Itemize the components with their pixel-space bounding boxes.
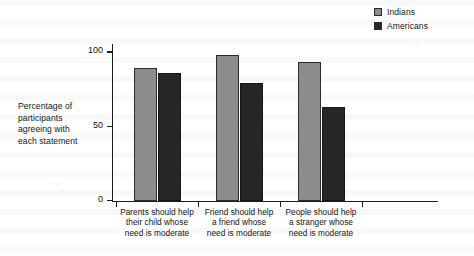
- y-axis-tick-label-100: 100: [88, 45, 103, 55]
- y-axis-line: [112, 44, 113, 202]
- y-axis-title-line-3: agreeing with: [18, 124, 102, 136]
- legend-swatch-americans: [374, 22, 382, 30]
- x-axis-label-1-line-2: their child whose: [116, 217, 198, 227]
- bar-indians-1: [134, 68, 157, 200]
- x-axis-tick-end: [362, 201, 363, 207]
- y-axis-tick-100: 100: [107, 51, 113, 52]
- chart-legend: Indians Americans: [374, 8, 428, 30]
- x-axis-label-2: Friend should helpa friend whoseneed is …: [198, 207, 280, 238]
- y-axis-tick-50: 50: [107, 126, 113, 127]
- legend-label-indians: Indians: [387, 8, 415, 17]
- legend-item-americans: Americans: [374, 22, 428, 31]
- y-axis-title-line-4: each statement: [18, 136, 102, 148]
- legend-swatch-indians: [374, 8, 382, 16]
- bar-indians-3: [298, 62, 321, 200]
- x-axis-label-3: People should helpa stranger whoseneed i…: [280, 207, 362, 238]
- x-axis-label-3-line-1: People should help: [280, 207, 362, 217]
- bar-americans-1: [158, 73, 181, 201]
- x-axis-label-3-line-3: need is moderate: [280, 228, 362, 238]
- x-axis-label-2-line-2: a friend whose: [198, 217, 280, 227]
- y-axis-tick-label-50: 50: [93, 120, 103, 130]
- bar-americans-2: [240, 83, 263, 200]
- y-axis-title: Percentage of participants agreeing with…: [18, 101, 102, 147]
- x-axis-line: [112, 201, 438, 202]
- x-axis-label-2-line-1: Friend should help: [198, 207, 280, 217]
- x-axis-label-1-line-1: Parents should help: [116, 207, 198, 217]
- x-axis-label-1: Parents should helptheir child whoseneed…: [116, 207, 198, 238]
- x-axis-label-1-line-3: need is moderate: [116, 228, 198, 238]
- plot-area: Parents should helptheir child whoseneed…: [112, 44, 438, 202]
- y-axis-tick-label-0: 0: [98, 194, 103, 204]
- legend-label-americans: Americans: [387, 22, 428, 31]
- grouped-bar-chart: Indians Americans Percentage of particip…: [0, 0, 474, 256]
- x-axis-label-2-line-3: need is moderate: [198, 228, 280, 238]
- legend-item-indians: Indians: [374, 8, 428, 17]
- y-axis-title-line-2: participants: [18, 113, 102, 125]
- y-axis-tick-0: 0: [107, 200, 113, 201]
- bar-americans-3: [322, 107, 345, 201]
- y-axis-title-line-1: Percentage of: [18, 101, 102, 113]
- x-axis-label-3-line-2: a stranger whose: [280, 217, 362, 227]
- bar-indians-2: [216, 55, 239, 201]
